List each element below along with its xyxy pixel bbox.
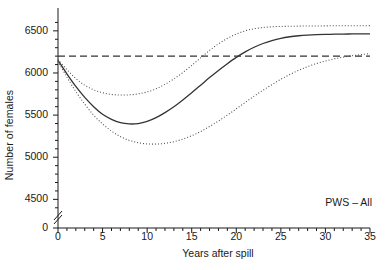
x-tick-label: 30: [310, 231, 340, 242]
x-tick-label: 20: [221, 231, 251, 242]
series-upper-confidence-bound: [58, 26, 370, 95]
series-median-projection: [58, 34, 370, 124]
x-tick-label: 5: [88, 231, 118, 242]
y-tick-labels: 045005000550060006500: [6, 0, 48, 270]
y-tick-label: 4500: [8, 193, 48, 203]
y-tick-label: 6000: [8, 67, 48, 77]
series-lower-confidence-bound: [58, 54, 370, 145]
x-tick-label: 15: [177, 231, 207, 242]
chart-figure: Number of females 045005000550060006500 …: [0, 0, 386, 270]
panel-annotation: PWS – All: [325, 196, 372, 208]
x-tick-label: 0: [43, 231, 73, 242]
x-tick-label: 10: [132, 231, 162, 242]
y-tick-label: 6500: [8, 25, 48, 35]
x-tick-label: 25: [266, 231, 296, 242]
y-tick-label: 5000: [8, 151, 48, 161]
x-tick-labels: 05101520253035: [0, 231, 386, 245]
y-tick-label: 5500: [8, 109, 48, 119]
x-tick-label: 35: [355, 231, 385, 242]
x-axis-title: Years after spill: [58, 246, 378, 260]
